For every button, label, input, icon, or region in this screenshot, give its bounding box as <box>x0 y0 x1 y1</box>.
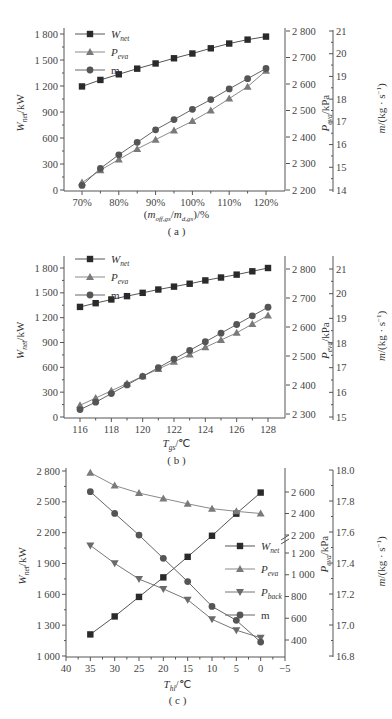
right1-tick-label: 2 600 <box>292 322 316 333</box>
square-marker-icon <box>97 77 103 83</box>
right2-tick-label: 15 <box>336 412 347 423</box>
right1-tick-label: 2 700 <box>292 293 316 304</box>
circle-marker-icon <box>97 165 104 172</box>
square-marker-icon <box>202 277 208 283</box>
square-marker-icon <box>155 286 161 292</box>
triangle-marker-icon <box>264 311 272 318</box>
circle-marker-icon <box>136 532 143 539</box>
chart-panel-a: 03006009001 2001 5001 800Wnet/kW70%80%90… <box>14 26 388 239</box>
right1-tick-label: 2 600 <box>291 487 315 498</box>
circle-marker-icon <box>189 106 196 113</box>
circle-marker-icon <box>87 488 94 495</box>
circle-marker-icon <box>87 67 94 74</box>
triangle-marker-icon <box>86 469 94 476</box>
triangle-marker-icon <box>152 136 160 143</box>
circle-marker-icon <box>202 338 209 345</box>
square-marker-icon <box>139 290 145 296</box>
left-tick-label: 600 <box>42 133 58 144</box>
circle-marker-icon <box>79 182 86 189</box>
x-axis-label: Thl/℃ <box>164 678 191 693</box>
right2-tick-label: 16.8 <box>336 651 354 662</box>
x-tick-label: 40 <box>61 663 72 674</box>
left-axis-label: Wnet/kW <box>16 547 31 585</box>
right2-axis-label: m/(kg · s−1) <box>375 536 388 587</box>
square-marker-icon <box>208 45 214 51</box>
left-tick-label: 2 200 <box>36 527 60 538</box>
circle-marker-icon <box>115 151 122 158</box>
inverted-triangle-marker-icon <box>208 616 216 623</box>
circle-marker-icon <box>171 116 178 123</box>
x-tick-label: 126 <box>229 424 245 435</box>
left-tick-label: 0 <box>53 185 58 196</box>
circle-marker-icon <box>184 578 191 585</box>
right1-tick-label: 2 500 <box>292 105 316 116</box>
chart-panel-b: 03006009001 2001 5001 800Wnet/kW11611812… <box>14 253 388 467</box>
triangle-marker-icon <box>207 107 215 114</box>
circle-marker-icon <box>171 356 178 363</box>
right1-tick-label: 2 500 <box>292 351 316 362</box>
right2-tick-label: 17.2 <box>336 589 354 600</box>
square-marker-icon <box>79 83 85 89</box>
right1-tick-label: 2 800 <box>292 26 316 37</box>
square-marker-icon <box>257 489 263 495</box>
legend-label: Wnet <box>261 540 280 555</box>
right2-tick-label: 17.8 <box>336 496 354 507</box>
square-marker-icon <box>263 33 269 39</box>
right1-tick-label: 2 400 <box>291 508 315 519</box>
right1-tick-label: 2 200 <box>292 185 316 196</box>
square-marker-icon <box>265 265 271 271</box>
left-tick-label: 1 200 <box>34 81 58 92</box>
x-tick-label: 35 <box>85 663 96 674</box>
right2-tick-label: 15 <box>336 162 347 173</box>
inverted-triangle-marker-icon <box>184 597 192 604</box>
square-marker-icon <box>152 60 158 66</box>
x-tick-label: 20 <box>158 663 169 674</box>
series-w-net <box>77 265 271 310</box>
left-axis-label: Wnet/kW <box>14 94 29 132</box>
right2-tick-label: 17 <box>336 116 347 127</box>
x-tick-label: 10 <box>207 663 218 674</box>
inverted-triangle-marker-icon <box>111 560 119 567</box>
legend-label: Wnet <box>111 28 130 43</box>
square-marker-icon <box>111 613 117 619</box>
left-axis-label: Wnet/kW <box>14 321 29 359</box>
left-tick-label: 900 <box>42 337 58 348</box>
circle-marker-icon <box>139 373 146 380</box>
circle-marker-icon <box>124 382 131 389</box>
right2-tick-label: 17.6 <box>336 527 354 538</box>
panel-caption: ( a ) <box>168 225 186 238</box>
circle-marker-icon <box>209 603 216 610</box>
right1-tick-label: 1 200 <box>291 548 315 559</box>
panel-caption: ( b ) <box>167 454 186 467</box>
x-tick-label: 100% <box>180 197 205 208</box>
circle-marker-icon <box>257 639 264 646</box>
circle-marker-icon <box>134 139 141 146</box>
panel-caption: ( c ) <box>169 694 187 707</box>
right1-axis-label: Peva/kPa <box>319 322 334 360</box>
right2-axis-label: m/(kg · s−1) <box>375 83 388 134</box>
left-tick-label: 1 300 <box>36 620 60 631</box>
figure-three-panel-line-charts: 03006009001 2001 5001 800Wnet/kW70%80%90… <box>0 0 392 719</box>
inverted-triangle-marker-icon <box>159 586 167 593</box>
right2-tick-label: 18.0 <box>336 465 354 476</box>
square-marker-icon <box>237 543 243 549</box>
inverted-triangle-marker-icon <box>135 576 143 583</box>
right1-tick-label: 800 <box>291 591 307 602</box>
right2-tick-label: 18 <box>336 94 347 105</box>
x-tick-label: 5 <box>234 663 239 674</box>
right2-tick-label: 21 <box>336 26 347 37</box>
legend-label: Pback <box>260 586 283 601</box>
circle-marker-icon <box>108 390 115 397</box>
left-tick-label: 1 500 <box>34 287 58 298</box>
x-tick-label: 118 <box>104 424 119 435</box>
right1-tick-label: 2 700 <box>292 52 316 63</box>
square-marker-icon <box>184 554 190 560</box>
triangle-marker-icon <box>170 126 178 133</box>
right2-tick-label: 17.0 <box>336 620 354 631</box>
legend-label: Wnet <box>111 253 130 268</box>
square-marker-icon <box>124 293 130 299</box>
legend-label: Peva <box>260 563 278 578</box>
triangle-marker-icon <box>217 336 225 343</box>
inverted-triangle-marker-icon <box>86 542 94 549</box>
left-tick-label: 1 900 <box>36 558 60 569</box>
